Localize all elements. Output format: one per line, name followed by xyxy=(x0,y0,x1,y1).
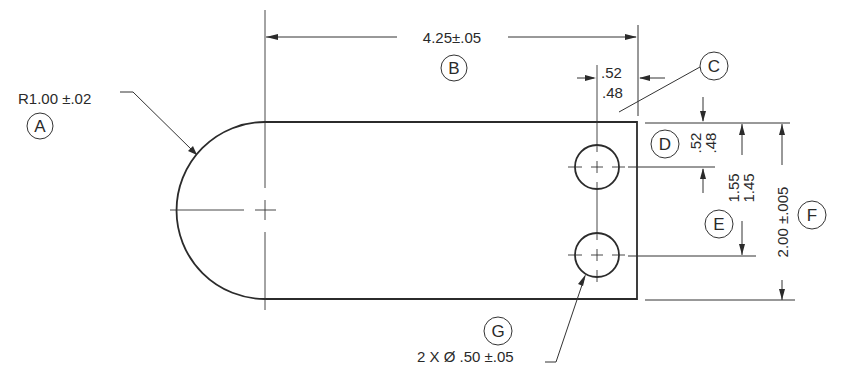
callout-label-f: F xyxy=(807,206,817,225)
callout-d: .52 .48 D xyxy=(651,97,719,193)
hole-edge-upper-text: .52 xyxy=(601,64,622,81)
length-dimension-text: 4.25±.05 xyxy=(423,29,481,46)
callout-a: R1.00 ±.02 A xyxy=(18,90,197,155)
callout-f: 2.00 ±.005 F xyxy=(774,124,826,300)
callout-label-c: C xyxy=(708,57,720,76)
radius-dimension-text: R1.00 ±.02 xyxy=(18,90,91,107)
hole-edge-lower-text: .48 xyxy=(602,84,623,101)
part-outline xyxy=(177,122,637,299)
height-dimension-text: 2.00 ±.005 xyxy=(774,187,791,258)
callout-c: .52 .48 C xyxy=(577,52,728,112)
callout-b: 4.25±.05 B xyxy=(266,29,637,81)
top-to-hole-lower-text: .48 xyxy=(702,133,719,154)
callout-label-e: E xyxy=(713,215,724,234)
callout-label-a: A xyxy=(34,117,46,136)
top-to-lower-hole-lower-text: 1.45 xyxy=(740,173,757,202)
arc-centerlines xyxy=(170,10,276,310)
technical-drawing: R1.00 ±.02 A 4.25±.05 B .52 .48 C .52 .4… xyxy=(0,0,845,388)
hole-diameter-text: 2 X Ø .50 ±.05 xyxy=(417,348,514,365)
callout-label-b: B xyxy=(448,59,459,78)
callout-label-d: D xyxy=(659,135,671,154)
callout-g: 2 X Ø .50 ±.05 G xyxy=(417,274,586,365)
callout-label-g: G xyxy=(491,322,504,341)
